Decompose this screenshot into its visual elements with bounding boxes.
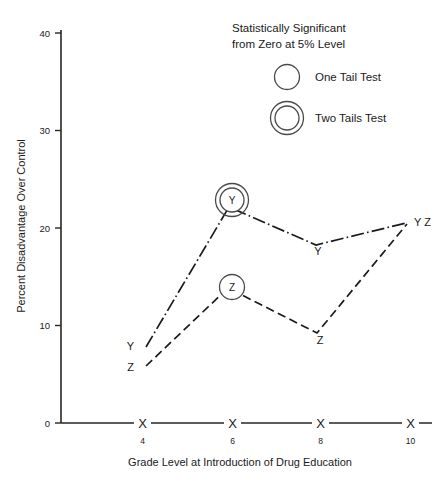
point-label-y-grade4: Y (127, 340, 135, 352)
legend-entry-two-tails: Two Tails Test (271, 102, 387, 135)
series-line-y (146, 207, 406, 347)
point-label-z-grade4: Z (127, 361, 134, 373)
y-axis-title: Percent Disadvantage Over Control (15, 139, 27, 313)
x-tick-label-10: 10 (406, 436, 416, 446)
legend-heading-line1: Statistically Significant (232, 22, 347, 34)
y-tick-label-20: 20 (39, 223, 50, 234)
marker-label-z-grade6: Z (229, 282, 235, 293)
two-tails-inner-circle-icon (275, 106, 299, 130)
chart-page: 0 10 20 30 40 X X X X 4 6 8 10 Grade Lev… (0, 0, 445, 487)
legend-label-one-tail: One Tail Test (315, 71, 382, 83)
point-label-yz-grade10: Y Z (414, 216, 431, 228)
marker-z-grade6-one-tail: Z (220, 275, 245, 300)
x-tick-label-6: 6 (230, 436, 235, 446)
x-axis-marker-10: X (406, 416, 415, 431)
marker-label-y-grade6: Y (229, 195, 236, 206)
y-tick-label-30: 30 (39, 125, 50, 136)
marker-y-grade6-two-tails: Y (216, 184, 249, 217)
one-tail-circle-icon (275, 65, 300, 90)
line-chart: 0 10 20 30 40 X X X X 4 6 8 10 Grade Lev… (0, 0, 445, 487)
y-tick-label-10: 10 (39, 320, 50, 331)
y-tick-label-40: 40 (39, 28, 50, 39)
x-axis-title: Grade Level at Introduction of Drug Educ… (128, 456, 352, 468)
x-tick-label-8: 8 (318, 436, 323, 446)
x-axis-marker-6: X (228, 416, 237, 431)
point-label-z-grade8: Z (317, 334, 324, 346)
legend-label-two-tails: Two Tails Test (315, 112, 387, 124)
x-tick-label-4: 4 (140, 436, 145, 446)
legend-entry-one-tail: One Tail Test (275, 65, 382, 90)
series-line-z (146, 224, 407, 366)
x-axis-marker-4: X (138, 416, 147, 431)
x-axis-marker-8: X (316, 416, 325, 431)
y-tick-label-0: 0 (45, 418, 50, 429)
legend: Statistically Significant from Zero at 5… (232, 22, 387, 135)
legend-heading-line2: from Zero at 5% Level (232, 38, 345, 50)
point-label-y-grade8: Y (314, 245, 322, 257)
